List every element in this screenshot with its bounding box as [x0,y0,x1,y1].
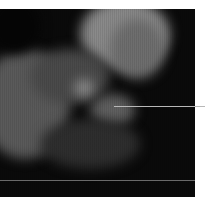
horizontal-rule [0,180,195,181]
annotation-pointer-line [114,106,205,107]
scan-texture [0,9,195,197]
photo-frame [0,9,195,197]
